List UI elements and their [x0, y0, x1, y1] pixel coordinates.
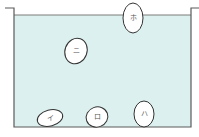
- object-label: ホ: [130, 14, 137, 22]
- object-label: ニ: [73, 47, 80, 55]
- object-label: ハ: [141, 110, 148, 118]
- object-ha: ハ: [134, 101, 154, 127]
- tank-diagram: イロハニホ: [0, 0, 199, 137]
- object-label: イ: [47, 114, 54, 122]
- object-ho: ホ: [123, 3, 143, 33]
- object-label: ロ: [94, 113, 101, 121]
